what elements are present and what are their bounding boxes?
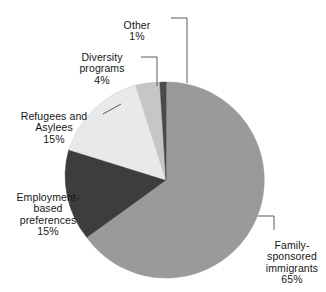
figure-caption-truncated bbox=[8, 283, 320, 292]
pie-chart-figure: Other 1% Diversity programs 4% Refugees … bbox=[0, 0, 326, 292]
leader-line-diversity-programs bbox=[141, 57, 157, 86]
pie-label-diversity-programs: Diversity programs 4% bbox=[66, 40, 138, 86]
pie-label-family-sponsored-immigrants-text: Family- sponsored immigrants 65% bbox=[266, 239, 318, 286]
pie-label-refugees-and-asylees-text: Refugees and Asylees 15% bbox=[21, 110, 88, 145]
pie-label-other: Other 1% bbox=[104, 8, 170, 43]
pie-label-employment-based-preferences: Employment- based preferences 15% bbox=[2, 180, 94, 238]
pie-label-employment-based-preferences-text: Employment- based preferences 15% bbox=[17, 191, 80, 238]
pie-label-refugees-and-asylees: Refugees and Asylees 15% bbox=[6, 99, 102, 145]
pie-label-other-text: Other 1% bbox=[124, 19, 151, 43]
pie-label-diversity-programs-text: Diversity programs 4% bbox=[79, 51, 124, 86]
leader-line-other bbox=[171, 18, 187, 83]
pie-label-family-sponsored-immigrants: Family- sponsored immigrants 65% bbox=[260, 228, 324, 286]
